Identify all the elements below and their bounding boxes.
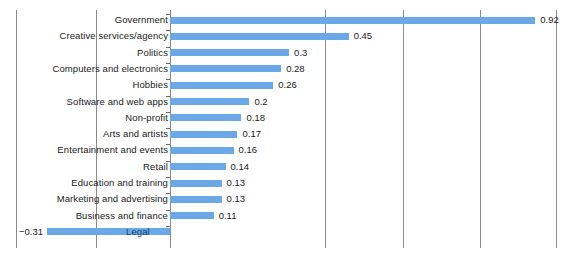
bar[interactable] — [170, 212, 214, 219]
category-label: Non-profit — [125, 110, 168, 126]
value-label: 0.45 — [354, 28, 373, 44]
bar-row: Arts and artists0.17 — [0, 126, 574, 142]
bar-row: Government0.92 — [0, 12, 574, 28]
bar-row: Business and finance0.11 — [0, 208, 574, 224]
category-label: Hobbies — [132, 77, 168, 93]
axis-tick — [166, 14, 170, 15]
bar-row: Creative services/agency0.45 — [0, 28, 574, 44]
category-label: Marketing and advertising — [57, 191, 168, 207]
bar[interactable] — [170, 49, 289, 56]
bar[interactable] — [170, 82, 273, 89]
bar-row: Hobbies0.26 — [0, 77, 574, 93]
bar[interactable] — [170, 65, 281, 72]
value-label: −0.31 — [19, 224, 43, 240]
category-label: Retail — [143, 159, 168, 175]
value-label: 0.17 — [242, 126, 261, 142]
bar-row: Politics0.3 — [0, 45, 574, 61]
bar[interactable] — [170, 131, 237, 138]
category-label: Government — [115, 12, 168, 28]
axis-tick — [166, 79, 170, 80]
axis-tick — [166, 226, 170, 227]
axis-tick — [166, 30, 170, 31]
bar-row: Education and training0.13 — [0, 175, 574, 191]
value-label: 0.2 — [254, 94, 267, 110]
category-label: Entertainment and events — [57, 142, 168, 158]
value-label: 0.11 — [219, 208, 237, 224]
category-label: Business and finance — [76, 208, 168, 224]
bar[interactable] — [170, 196, 222, 203]
category-label: Politics — [137, 45, 168, 61]
bar-chart: Government0.92Creative services/agency0.… — [0, 0, 574, 258]
bar[interactable] — [47, 228, 170, 235]
bar-row: Legal−0.31 — [0, 224, 574, 240]
category-label: Software and web apps — [67, 94, 168, 110]
value-label: 0.13 — [227, 175, 246, 191]
value-label: 0.16 — [239, 142, 258, 158]
category-label: Legal — [126, 224, 150, 240]
value-label: 0.26 — [278, 77, 297, 93]
category-label: Education and training — [71, 175, 168, 191]
bar[interactable] — [170, 33, 349, 40]
axis-tick — [166, 128, 170, 129]
value-label: 0.18 — [246, 110, 265, 126]
value-label: 0.13 — [227, 191, 246, 207]
bar[interactable] — [170, 114, 241, 121]
axis-tick — [166, 177, 170, 178]
category-label: Creative services/agency — [59, 28, 168, 44]
axis-tick — [166, 193, 170, 194]
axis-tick — [166, 144, 170, 145]
bar[interactable] — [170, 98, 249, 105]
axis-tick — [166, 96, 170, 97]
bar-row: Marketing and advertising0.13 — [0, 191, 574, 207]
value-label: 0.28 — [286, 61, 305, 77]
bar-row: Non-profit0.18 — [0, 110, 574, 126]
category-label: Arts and artists — [103, 126, 168, 142]
value-label: 0.3 — [294, 45, 307, 61]
axis-tick — [166, 63, 170, 64]
bar-row: Entertainment and events0.16 — [0, 142, 574, 158]
bar-row: Computers and electronics0.28 — [0, 61, 574, 77]
category-label: Computers and electronics — [53, 61, 169, 77]
bar-row: Software and web apps0.2 — [0, 94, 574, 110]
axis-tick — [166, 47, 170, 48]
bar[interactable] — [170, 163, 226, 170]
axis-tick — [166, 210, 170, 211]
bar[interactable] — [170, 17, 535, 24]
bar-row: Retail0.14 — [0, 159, 574, 175]
axis-tick — [166, 112, 170, 113]
bar[interactable] — [170, 147, 234, 154]
value-label: 0.14 — [231, 159, 250, 175]
bar[interactable] — [170, 180, 222, 187]
axis-tick — [166, 161, 170, 162]
value-label: 0.92 — [540, 12, 559, 28]
